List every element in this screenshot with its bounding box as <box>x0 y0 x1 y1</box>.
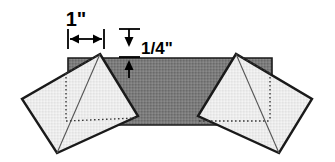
figure-canvas: 1" 1/4" <box>0 0 335 162</box>
thickness-dimension-label: 1/4" <box>141 39 173 58</box>
technical-illustration: 1" 1/4" <box>0 0 335 162</box>
width-dimension-label: 1" <box>66 8 87 30</box>
